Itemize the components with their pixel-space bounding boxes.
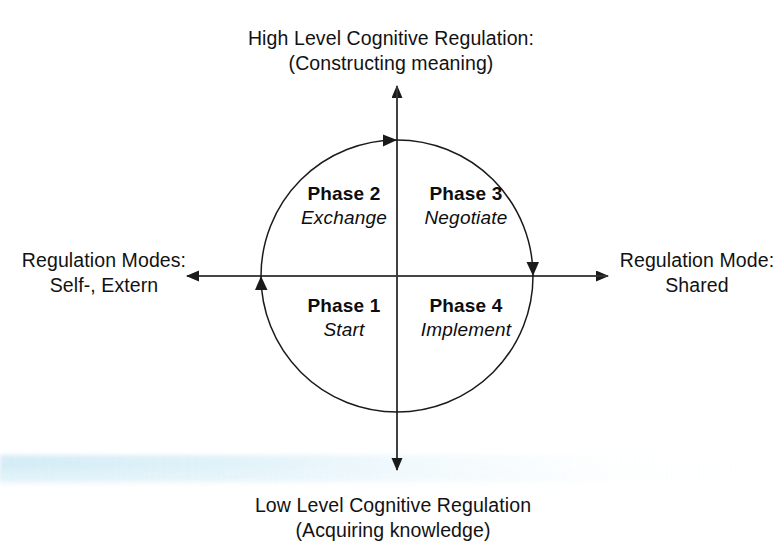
quadrant-phase-1-title: Phase 1 <box>280 294 408 318</box>
quadrant-phase-4-title: Phase 4 <box>402 294 530 318</box>
axis-label-top-line2: (Constructing meaning) <box>226 51 556 76</box>
quadrant-phase-3-title: Phase 3 <box>402 182 530 206</box>
quadrant-phase-3: Phase 3 Negotiate <box>402 182 530 230</box>
axis-label-left-line1: Regulation Modes: <box>18 248 190 273</box>
quadrant-phase-2-subtitle: Exchange <box>280 206 408 230</box>
diagram-canvas: High Level Cognitive Regulation: (Constr… <box>0 0 784 555</box>
axis-label-right-line1: Regulation Mode: <box>614 248 780 273</box>
axis-label-left: Regulation Modes: Self-, Extern <box>18 248 190 298</box>
axis-label-bottom-line2: (Acquiring knowledge) <box>238 518 548 543</box>
cycle-arrowhead-right <box>527 262 540 276</box>
axis-label-bottom-line1: Low Level Cognitive Regulation <box>238 493 548 518</box>
quadrant-phase-4: Phase 4 Implement <box>402 294 530 342</box>
quadrant-phase-4-subtitle: Implement <box>402 318 530 342</box>
axis-label-right-line2: Shared <box>614 273 780 298</box>
quadrant-phase-2: Phase 2 Exchange <box>280 182 408 230</box>
quadrant-phase-3-subtitle: Negotiate <box>402 206 530 230</box>
cycle-arrowhead-left <box>255 276 268 290</box>
axis-label-left-line2: Self-, Extern <box>18 273 190 298</box>
quadrant-phase-2-title: Phase 2 <box>280 182 408 206</box>
cycle-arrowhead-top <box>383 135 397 147</box>
axis-label-bottom: Low Level Cognitive Regulation (Acquirin… <box>238 493 548 543</box>
quadrant-phase-1-subtitle: Start <box>280 318 408 342</box>
axis-label-right: Regulation Mode: Shared <box>614 248 780 298</box>
axis-label-top-line1: High Level Cognitive Regulation: <box>226 26 556 51</box>
axis-label-top: High Level Cognitive Regulation: (Constr… <box>226 26 556 76</box>
quadrant-phase-1: Phase 1 Start <box>280 294 408 342</box>
